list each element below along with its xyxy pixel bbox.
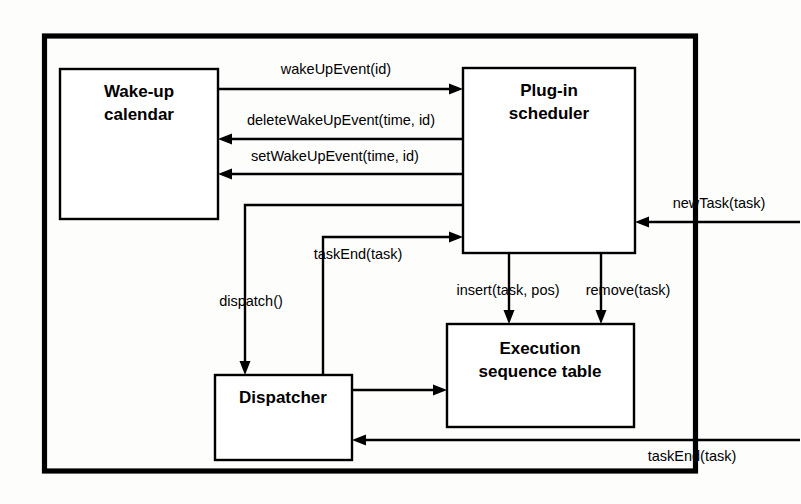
edge-setWakeUpEvent: setWakeUpEvent(time, id) bbox=[218, 148, 463, 180]
node-wakeup-calendar-label-line2: calendar bbox=[104, 105, 174, 124]
diagram-svg: wakeUpEvent(id) deleteWakeUpEvent(time, … bbox=[0, 0, 801, 504]
edge-dispatcherToTable bbox=[352, 385, 447, 396]
edge-taskEndBottom: taskEnd(task) bbox=[352, 435, 800, 465]
node-dispatcher[interactable]: Dispatcher bbox=[215, 375, 352, 460]
edge-newTask: newTask(task) bbox=[635, 195, 800, 228]
edge-label-newTask: newTask(task) bbox=[673, 195, 766, 211]
edge-insert: insert(task, pos) bbox=[456, 253, 559, 324]
edge-label-setWakeUpEvent: setWakeUpEvent(time, id) bbox=[251, 148, 419, 164]
node-execution-sequence-table-label-line1: Execution bbox=[499, 339, 580, 358]
node-plugin-scheduler-label-line1: Plug-in bbox=[520, 81, 578, 100]
node-wakeup-calendar-label-line1: Wake-up bbox=[104, 82, 174, 101]
edge-remove: remove(task) bbox=[586, 253, 671, 324]
edge-label-dispatch: dispatch() bbox=[219, 293, 283, 309]
node-execution-sequence-table[interactable]: Execution sequence table bbox=[447, 324, 634, 427]
edge-dispatch: dispatch() bbox=[219, 205, 463, 375]
edge-label-wakeUpEvent: wakeUpEvent(id) bbox=[280, 61, 391, 77]
edge-taskEndUp: taskEnd(task) bbox=[314, 232, 463, 376]
node-plugin-scheduler-label-line2: scheduler bbox=[509, 104, 590, 123]
node-wakeup-calendar[interactable]: Wake-up calendar bbox=[60, 69, 218, 219]
node-plugin-scheduler[interactable]: Plug-in scheduler bbox=[463, 68, 635, 253]
edge-label-remove: remove(task) bbox=[586, 282, 671, 298]
edge-label-deleteWakeUpEvent: deleteWakeUpEvent(time, id) bbox=[247, 112, 435, 128]
diagram-canvas: wakeUpEvent(id) deleteWakeUpEvent(time, … bbox=[0, 0, 801, 504]
node-execution-sequence-table-label-line2: sequence table bbox=[479, 362, 602, 381]
node-dispatcher-label-line1: Dispatcher bbox=[239, 388, 327, 407]
edge-deleteWakeUpEvent: deleteWakeUpEvent(time, id) bbox=[218, 112, 463, 145]
edge-label-taskEndUp: taskEnd(task) bbox=[314, 246, 403, 262]
edge-wakeUpEvent: wakeUpEvent(id) bbox=[218, 61, 463, 95]
edge-label-insert: insert(task, pos) bbox=[456, 282, 559, 298]
edge-label-taskEndBottom: taskEnd(task) bbox=[648, 448, 737, 464]
